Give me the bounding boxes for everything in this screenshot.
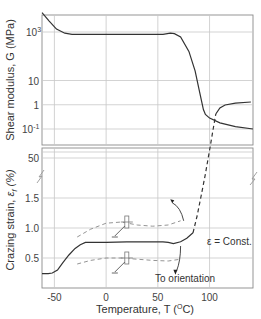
bottom-y-tick-label: 1.0 (25, 223, 39, 234)
x-axis-label: Temperature, T (OC) (96, 303, 194, 315)
bottom-panel: -500501000.51.01.550 (25, 102, 257, 303)
tick-exponent: 3 (37, 26, 41, 33)
shear-modulus-curve (42, 13, 253, 129)
y-label-units: (%) (4, 169, 16, 186)
upper-specimen-leader (115, 226, 125, 236)
bottom-y-tick-label: 50 (28, 153, 40, 164)
top-y-tick-label: 10 (28, 76, 40, 87)
top-y-tick-label: 10-1 (22, 123, 39, 135)
tick-exponent: -1 (33, 123, 39, 130)
bottom-plot-frame (42, 148, 253, 288)
top-y-axis-label: Shear modulus, G (MPa) (4, 19, 16, 141)
top-panel: 10310110-1 (22, 13, 253, 145)
right-axis-break-icon (250, 172, 257, 185)
bottom-y-axis-label: Crazing strain, εf(%) (4, 169, 19, 271)
modulus-and-crazing-strain-chart: 10310110-1 -500501000.51.01.550 Shear mo… (0, 0, 261, 319)
tick-base: 10 (22, 124, 34, 135)
top-y-tick-label: 1 (33, 100, 39, 111)
crazing-strain-curve (42, 233, 193, 274)
y-label-main: Crazing strain, (4, 197, 16, 271)
arrow-down-curve (176, 246, 180, 271)
crazing-strain-curve (193, 114, 216, 233)
y-label-subscript: f (10, 189, 19, 192)
arrow-up-curve (172, 203, 183, 221)
x-label-end: C) (182, 303, 194, 315)
arrow-up-head-icon (170, 199, 174, 203)
tick-base: 10 (28, 76, 40, 87)
bottom-y-tick-label: 1.5 (25, 193, 39, 204)
bottom-y-tick-label: 0.5 (25, 253, 39, 264)
crazing-strain-curve (216, 102, 251, 114)
x-label-main: Temperature, T ( (96, 303, 177, 315)
annotation-to-orientation: To orientation (155, 273, 215, 284)
x-tick-label: -50 (47, 292, 62, 303)
top-y-tick-label: 103 (26, 26, 41, 38)
tick-base: 10 (26, 27, 38, 38)
tick-base: 1 (33, 100, 39, 111)
x-tick-label: 0 (103, 292, 109, 303)
left-axis-break-icon (37, 170, 44, 183)
lower-specimen-leader (115, 262, 125, 272)
annotation-const-strain: ε = Const. (207, 236, 252, 247)
x-tick-label: 100 (201, 292, 218, 303)
x-tick-label: 50 (152, 292, 164, 303)
